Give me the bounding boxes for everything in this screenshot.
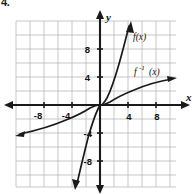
y-axis [96, 10, 104, 194]
f-inverse-arrow-left [15, 131, 25, 137]
curve-label-f-inverse: f -1 (x) [134, 64, 160, 78]
ytick-label-neg8: -8 [84, 156, 92, 167]
xtick-label-8: 8 [154, 111, 159, 122]
curve-label-f-inverse-tail: (x) [149, 67, 160, 78]
curve-f-inverse [15, 76, 177, 137]
xtick-label-4: 4 [126, 111, 132, 122]
problem-number: 4. [1, 0, 10, 8]
graph-figure: 4. [0, 0, 192, 194]
curve-label-f-inverse-base: f [134, 67, 138, 77]
coordinate-plane: -8 -4 4 8 8 4 -4 -8 y x f(x) f -1 (x) [0, 0, 192, 194]
xtick-label-neg8: -8 [34, 110, 42, 121]
f-arrow-bottom [72, 179, 80, 190]
curve-label-f-inverse-exponent: -1 [139, 64, 145, 72]
ytick-label-8: 8 [85, 44, 90, 55]
y-axis-label: y [104, 11, 111, 23]
ytick-label-4: 4 [85, 72, 91, 83]
x-axis-label: x [185, 91, 192, 103]
curve-label-f: f(x) [133, 32, 146, 43]
